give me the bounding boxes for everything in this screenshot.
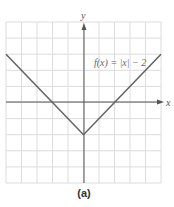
function-label: f(x) = |x| − 2 <box>94 57 146 69</box>
y-axis-label: y <box>80 10 86 21</box>
graph: f(x) = |x| − 2 x y <box>0 0 174 207</box>
caption: (a) <box>0 187 168 199</box>
x-axis-label: x <box>165 97 171 108</box>
y-arrow-icon <box>82 23 87 30</box>
